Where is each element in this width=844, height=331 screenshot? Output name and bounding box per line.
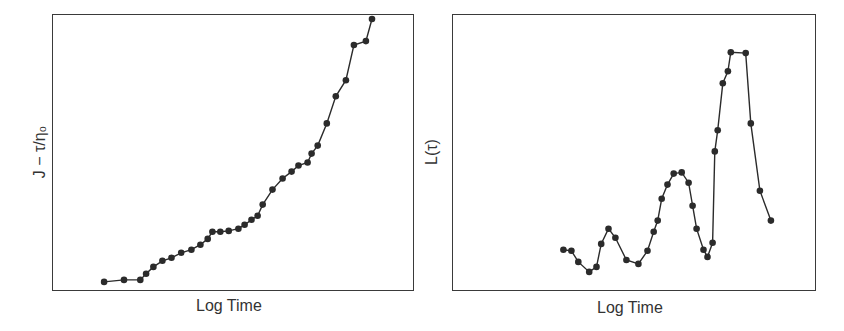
data-point-marker	[612, 235, 619, 242]
data-point-marker	[704, 254, 711, 261]
data-point-marker	[598, 241, 605, 248]
right-chart-panel: L(τ) Log Time	[0, 0, 844, 331]
data-point-marker	[644, 248, 651, 255]
right-y-axis-label: L(τ)	[423, 122, 441, 182]
data-point-marker	[757, 187, 764, 194]
data-point-marker	[593, 264, 600, 271]
data-point-marker	[654, 217, 661, 224]
data-point-marker	[748, 120, 755, 127]
data-point-marker	[725, 68, 732, 75]
data-point-marker	[664, 181, 671, 188]
data-point-marker	[605, 225, 612, 232]
data-point-marker	[689, 202, 696, 209]
data-point-marker	[635, 261, 642, 268]
data-point-marker	[575, 259, 582, 266]
data-point-marker	[728, 49, 735, 56]
series-line	[563, 52, 771, 272]
data-point-marker	[658, 196, 665, 203]
data-point-marker	[623, 257, 630, 264]
data-point-marker	[560, 246, 567, 253]
data-point-marker	[720, 80, 727, 87]
data-point-marker	[709, 240, 716, 247]
data-point-marker	[714, 127, 721, 134]
data-point-marker	[650, 228, 657, 235]
data-point-marker	[568, 248, 575, 255]
data-point-marker	[685, 179, 692, 186]
data-point-marker	[670, 170, 677, 177]
data-point-marker	[586, 269, 593, 276]
data-point-marker	[700, 246, 707, 253]
data-point-marker	[712, 148, 719, 155]
right-x-axis-label: Log Time	[597, 299, 663, 317]
data-point-marker	[693, 225, 700, 232]
data-point-marker	[768, 217, 775, 224]
right-line-series	[452, 14, 816, 291]
data-point-marker	[678, 169, 685, 176]
data-point-marker	[742, 50, 749, 57]
